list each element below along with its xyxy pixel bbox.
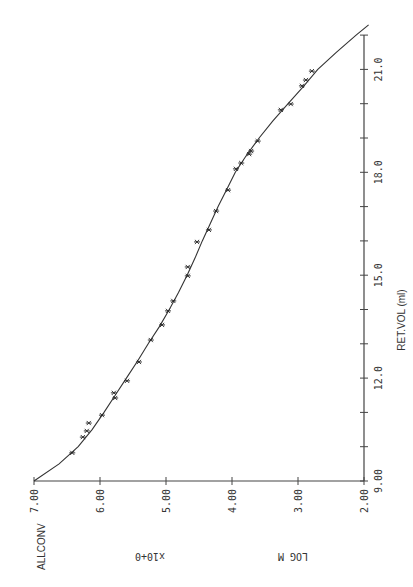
ret-vol-tick-label: 21.0	[373, 57, 384, 81]
data-point-asterisk	[159, 323, 165, 327]
data-point-asterisk	[238, 161, 244, 165]
data-point-asterisk	[112, 396, 118, 400]
data-markers	[69, 69, 315, 455]
log-m-tick-label: 3.00	[293, 489, 304, 513]
axes	[34, 35, 364, 481]
chart-title: ALLCONV	[36, 523, 47, 570]
data-point-asterisk	[111, 391, 117, 395]
ret-vol-tick-label: 9.00	[373, 469, 384, 493]
chart: 2.003.004.005.006.007.009.0012.015.018.0…	[0, 0, 413, 587]
data-point-asterisk	[288, 102, 294, 106]
data-point-asterisk	[80, 435, 86, 439]
log-m-tick-label: 7.00	[29, 489, 40, 513]
log-m-tick-label: 5.00	[161, 489, 172, 513]
y-scale-label: x10+0	[135, 551, 165, 562]
data-point-asterisk	[194, 240, 200, 244]
tick-marks	[34, 35, 368, 485]
log-m-tick-label: 4.00	[227, 489, 238, 513]
data-point-asterisk	[84, 429, 90, 433]
ret-vol-tick-label: 15.0	[373, 263, 384, 287]
data-point-asterisk	[124, 379, 130, 383]
y-axis-label: LOG M	[278, 551, 308, 562]
data-point-asterisk	[185, 265, 191, 269]
fit-curve	[34, 25, 369, 481]
data-point-asterisk	[225, 188, 231, 192]
ret-vol-tick-label: 18.0	[373, 160, 384, 184]
data-point-asterisk	[148, 338, 154, 342]
tick-labels: 2.003.004.005.006.007.009.0012.015.018.0…	[29, 57, 384, 513]
data-point-asterisk	[309, 69, 315, 73]
log-m-tick-label: 6.00	[95, 489, 106, 513]
data-point-asterisk	[99, 413, 105, 417]
data-point-asterisk	[303, 78, 309, 82]
data-point-asterisk	[86, 421, 92, 425]
x-axis-label: RET.VOL (ml)	[396, 289, 407, 350]
ret-vol-tick-label: 12.0	[373, 366, 384, 390]
data-point-asterisk	[206, 228, 212, 232]
data-point-asterisk	[136, 360, 142, 364]
log-m-tick-label: 2.00	[359, 489, 370, 513]
